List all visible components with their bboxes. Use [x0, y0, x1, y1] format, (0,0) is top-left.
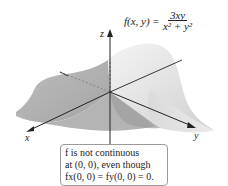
- caption-line-1: f is not continuous: [65, 147, 164, 159]
- z-axis-label: z: [100, 28, 104, 39]
- caption-line-3: fx(0, 0) = fy(0, 0) = 0.: [65, 171, 164, 183]
- z-axis-arrow-icon: [107, 29, 113, 37]
- caption-box: f is not continuous at (0, 0), even thou…: [60, 144, 168, 186]
- formula-equals: =: [153, 15, 159, 27]
- caption-line-2: at (0, 0), even though: [65, 159, 164, 171]
- y-axis-label: y: [194, 130, 198, 141]
- formula-lhs: f(x, y): [124, 15, 150, 27]
- function-formula: f(x, y) = 3xy x² + y²: [124, 10, 193, 31]
- formula-fraction: 3xy x² + y²: [162, 10, 193, 31]
- x-axis-label: x: [25, 132, 29, 143]
- formula-denominator: x² + y²: [162, 21, 193, 31]
